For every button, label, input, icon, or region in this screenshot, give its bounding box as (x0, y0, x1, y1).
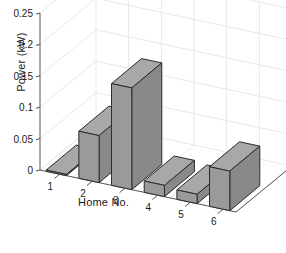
y-tick-label: 0.05 (14, 134, 34, 145)
bar-home-6 (210, 142, 260, 211)
y-axis-ticks: 00.050.10.150.20.25 (14, 8, 40, 176)
y-tick-label: 0.1 (19, 102, 33, 113)
y-tick-label: 0.15 (14, 71, 34, 82)
y-tick-label: 0.25 (14, 8, 34, 19)
x-tick-label-home-3: 3 (113, 195, 119, 206)
plot-area: 00.050.10.150.20.25 123456 (0, 0, 286, 253)
figure-3d-bar-chart: Power (kW) Home No. 00.050.10.150.20.25 … (0, 0, 286, 253)
x-tick-label-home-2: 2 (80, 188, 86, 199)
x-tick-label-home-6: 6 (211, 216, 217, 227)
x-tick-label-home-5: 5 (178, 209, 184, 220)
x-tick-label-home-4: 4 (146, 202, 152, 213)
y-tick-label: 0.2 (19, 39, 33, 50)
y-tick-label: 0 (27, 165, 33, 176)
x-tick-label-home-1: 1 (48, 181, 54, 192)
bar-series (46, 59, 260, 211)
bar-home-3 (112, 59, 162, 190)
